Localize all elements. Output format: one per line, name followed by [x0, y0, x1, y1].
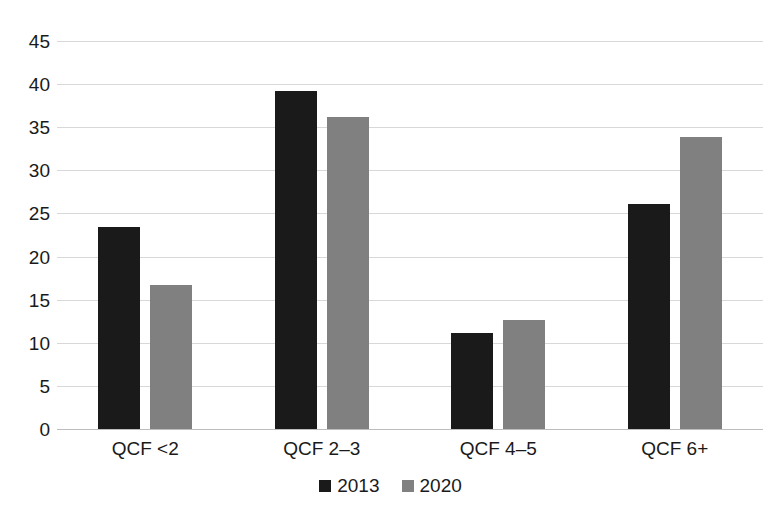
y-tick-label-25: 25	[8, 204, 50, 223]
y-tick-label-45: 45	[8, 32, 50, 51]
y-tick-label-15: 15	[8, 290, 50, 309]
x-tick-label-4: QCF 6+	[641, 437, 708, 461]
x-axis-category-labels: QCF <2QCF 2–3QCF 4–5QCF 6+	[57, 437, 763, 463]
y-tick-label-5: 5	[8, 376, 50, 395]
legend-item-2020: 2020	[402, 476, 462, 495]
y-tick-label-40: 40	[8, 75, 50, 94]
legend-label-2013: 2013	[337, 476, 379, 495]
y-tick-label-20: 20	[8, 247, 50, 266]
bar-2013-qcf-6+	[628, 204, 670, 429]
gridline-35	[57, 127, 763, 128]
bar-2013-qcf-2–3	[275, 91, 317, 429]
gridline-40	[57, 84, 763, 85]
bar-2020-qcf-2–3	[327, 117, 369, 429]
gridline-30	[57, 170, 763, 171]
legend-label-2020: 2020	[420, 476, 462, 495]
y-tick-label-0: 0	[8, 420, 50, 439]
gridline-0	[57, 429, 763, 430]
y-axis: 051015202530354045	[0, 41, 50, 429]
gridline-45	[57, 41, 763, 42]
bar-2013-qcf-4–5	[451, 333, 493, 429]
bar-chart: 051015202530354045 QCF <2QCF 2–3QCF 4–5Q…	[0, 0, 781, 519]
bar-2020-qcf-<2	[150, 285, 192, 429]
chart-legend: 20132020	[0, 476, 781, 495]
y-tick-label-30: 30	[8, 161, 50, 180]
plot-area	[57, 41, 763, 429]
legend-item-2013: 2013	[319, 476, 379, 495]
legend-swatch-2013	[319, 480, 331, 492]
bar-2020-qcf-6+	[680, 137, 722, 429]
x-tick-label-3: QCF 4–5	[460, 437, 537, 461]
bar-2020-qcf-4–5	[503, 320, 545, 430]
y-tick-label-35: 35	[8, 118, 50, 137]
x-tick-label-1: QCF <2	[112, 437, 179, 461]
x-tick-label-2: QCF 2–3	[283, 437, 360, 461]
bar-2013-qcf-<2	[98, 227, 140, 429]
legend-swatch-2020	[402, 480, 414, 492]
y-tick-label-10: 10	[8, 333, 50, 352]
